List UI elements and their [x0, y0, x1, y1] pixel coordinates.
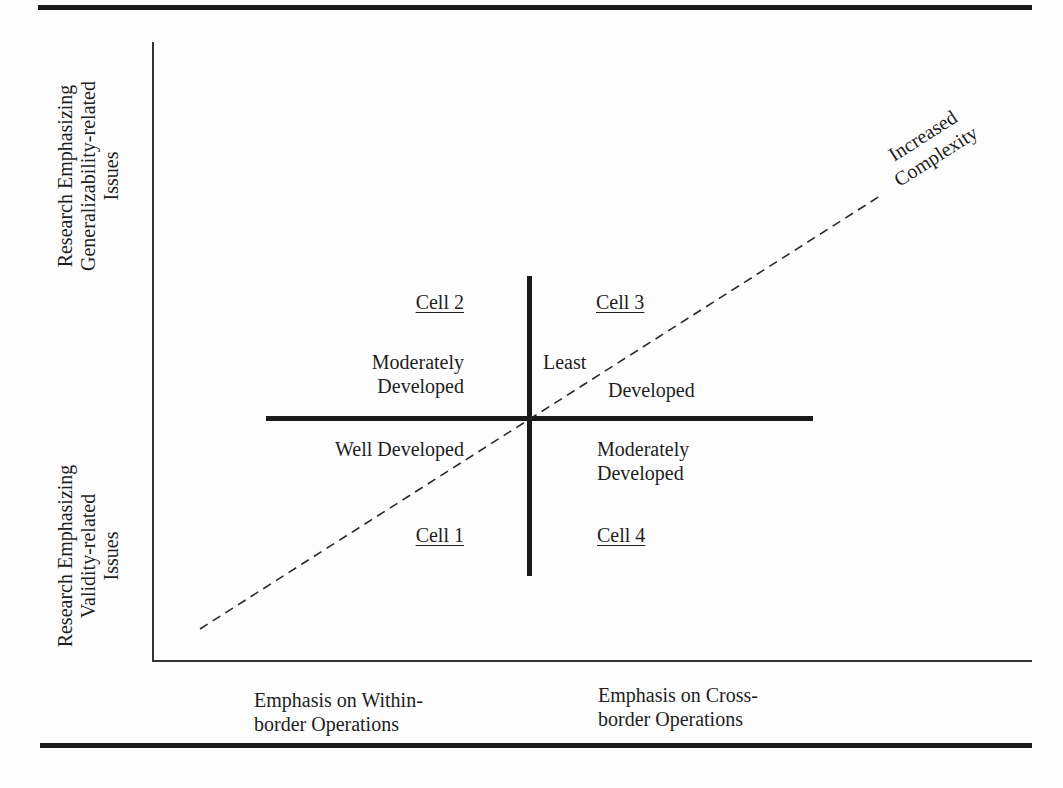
- y-axis-upper-label-line-1: Research Emphasizing: [54, 46, 77, 306]
- x-axis-right-label-line-1: Emphasis on Cross-: [598, 683, 758, 707]
- cell-3-description-line-1: Least: [543, 350, 586, 374]
- x-axis-right-label: Emphasis on Cross- border Operations: [598, 683, 758, 731]
- cell-2-description: Moderately Developed: [300, 350, 464, 398]
- cell-4-description: Moderately Developed: [597, 437, 689, 485]
- cell-1-description: Well Developed: [280, 437, 464, 461]
- cell-2-title: Cell 2: [300, 290, 464, 314]
- x-axis-left-label-line-2: border Operations: [254, 712, 423, 736]
- cell-4-description-line-1: Moderately: [597, 437, 689, 461]
- complexity-diagonal: [0, 0, 1063, 788]
- cell-4-title: Cell 4: [597, 523, 645, 547]
- cell-2-description-line-2: Developed: [300, 374, 464, 398]
- cell-3-description-line-2: Developed: [608, 378, 695, 402]
- x-axis-left-label-line-1: Emphasis on Within-: [254, 688, 423, 712]
- cell-3-title: Cell 3: [596, 290, 644, 314]
- y-axis-lower-label-line-2: Validity-related: [77, 426, 100, 686]
- cell-4-description-line-2: Developed: [597, 461, 689, 485]
- x-axis-left-label: Emphasis on Within- border Operations: [254, 688, 423, 736]
- y-axis-lower-label-line-1: Research Emphasizing: [54, 426, 77, 686]
- cell-1-title: Cell 1: [300, 523, 464, 547]
- x-axis-right-label-line-2: border Operations: [598, 707, 758, 731]
- cell-2-description-line-1: Moderately: [300, 350, 464, 374]
- y-axis-upper-label-line-3: Issues: [100, 46, 123, 306]
- y-axis-lower-label: Research Emphasizing Validity-related Is…: [54, 426, 126, 686]
- y-axis-lower-label-line-3: Issues: [100, 426, 123, 686]
- y-axis-upper-label-line-2: Generalizability-related: [77, 46, 100, 306]
- y-axis-upper-label: Research Emphasizing Generalizability-re…: [54, 46, 126, 306]
